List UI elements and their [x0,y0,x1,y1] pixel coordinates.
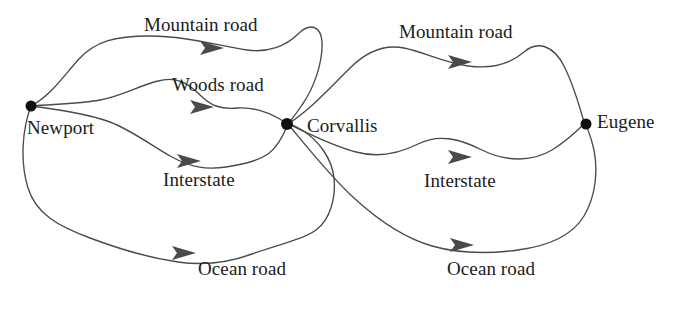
node-label-eugene: Eugene [597,111,655,133]
arrow-head-interstate-right [448,150,472,164]
edge-label-woods-road: Woods road [172,74,264,96]
edge-corvallis-eugene-mountain[interactable] [288,46,584,124]
node-label-corvallis: Corvallis [307,115,378,137]
graph-svg [0,0,680,310]
node-dot-eugene[interactable] [581,119,592,130]
node-label-newport: Newport [27,117,94,139]
edge-label-ocean-road-right: Ocean road [447,258,535,280]
diagram-canvas: Mountain road Woods road Interstate Ocea… [0,0,680,310]
edge-label-interstate-left: Interstate [163,169,235,191]
arrow-head-ocean-road-left [172,246,196,260]
node-dot-newport[interactable] [26,101,37,112]
edge-path-mountain-road-right [288,46,584,124]
edge-label-ocean-road-left: Ocean road [198,258,286,280]
arrow-head-woods-road [190,100,214,114]
node-dot-corvallis[interactable] [281,118,293,130]
edge-label-interstate-right: Interstate [424,170,496,192]
arrow-head-ocean-road-right [450,238,474,252]
edge-label-mountain-road-left: Mountain road [144,14,258,36]
edge-label-mountain-road-right: Mountain road [399,21,513,43]
